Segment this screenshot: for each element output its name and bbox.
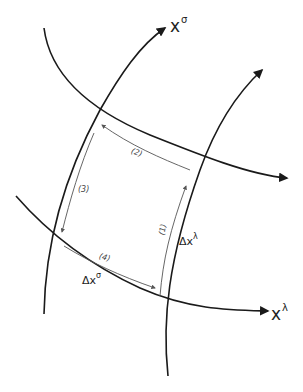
x-sigma-axis-curve [44,28,165,314]
parallel-transport-loop-diagram: xσ xλ Δxλ Δxσ (1) (2) (3) (4) [0,0,303,392]
upper-coordinate-curve [44,28,287,178]
delta-x-sigma-label: Δxσ [82,271,101,287]
x-lambda-axis-curve [16,196,268,311]
path-label-1: (1) [157,223,168,236]
path-3-arrow [62,133,94,232]
x-lambda-axis-label: xλ [271,302,288,324]
path-label-3: (3) [78,185,89,194]
path-2-arrow [102,125,190,170]
right-coordinate-curve [166,70,262,376]
delta-x-lambda-label: Δxλ [179,232,198,248]
x-sigma-axis-label: xσ [170,14,187,36]
diagram-curves [0,0,303,392]
